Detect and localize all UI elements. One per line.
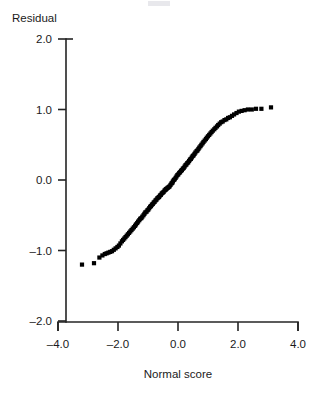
data-point [269, 105, 273, 109]
data-point [92, 261, 96, 265]
chart-canvas: Residual 2.01.00.0–1.0–2.0 –4.0–2.00.02.… [0, 0, 318, 394]
x-axis-title: Normal score [144, 368, 212, 380]
data-point [254, 107, 258, 111]
data-point [250, 107, 254, 111]
data-point [246, 107, 250, 111]
top-edge-artifact [148, 1, 170, 6]
x-tick-label: –2.0 [107, 338, 129, 350]
y-axis-title: Residual [12, 12, 57, 24]
x-tick-label: –4.0 [47, 338, 69, 350]
normal-probability-plot: Residual 2.01.00.0–1.0–2.0 –4.0–2.00.02.… [0, 0, 318, 394]
y-tick-label: –1.0 [30, 245, 52, 257]
data-point [259, 107, 263, 111]
data-point [80, 263, 84, 267]
y-tick-label: –2.0 [30, 315, 52, 327]
x-tick-label: 0.0 [170, 338, 186, 350]
x-tick-label: 2.0 [230, 338, 246, 350]
y-tick-label: 0.0 [36, 174, 52, 186]
y-tick-label: 1.0 [36, 104, 52, 116]
y-tick-label: 2.0 [36, 33, 52, 45]
x-tick-label: 4.0 [290, 338, 306, 350]
